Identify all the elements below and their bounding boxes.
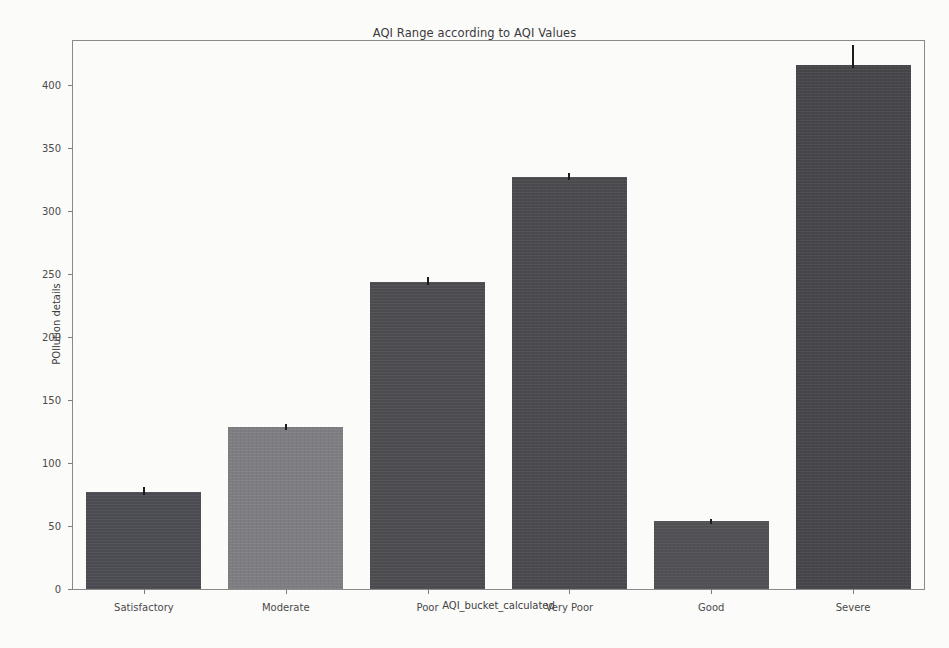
error-bar bbox=[710, 519, 712, 524]
bar-texture bbox=[654, 521, 769, 589]
bar-poor bbox=[370, 282, 485, 589]
y-axis-tick-mark bbox=[68, 211, 73, 212]
y-axis-tick-label: 50 bbox=[0, 521, 61, 532]
y-axis-tick-mark bbox=[68, 463, 73, 464]
bar-texture bbox=[512, 177, 627, 589]
bar-good bbox=[654, 521, 769, 589]
plot-area: 050100150200250300350400SatisfactoryMode… bbox=[72, 40, 925, 590]
chart-figure: AQI Range according to AQI Values POllut… bbox=[0, 0, 949, 648]
y-axis-tick-label: 150 bbox=[0, 395, 61, 406]
y-axis-label: POllution details bbox=[51, 283, 62, 364]
x-axis-tick-mark bbox=[286, 589, 287, 594]
y-axis-tick-mark bbox=[68, 589, 73, 590]
chart-title: AQI Range according to AQI Values bbox=[0, 26, 949, 40]
y-axis-tick-label: 250 bbox=[0, 269, 61, 280]
bar-texture bbox=[86, 492, 201, 589]
x-axis-tick-mark bbox=[711, 589, 712, 594]
error-bar bbox=[285, 424, 287, 429]
y-axis-tick-label: 0 bbox=[0, 584, 61, 595]
y-axis-tick-label: 200 bbox=[0, 332, 61, 343]
x-axis-tick-mark bbox=[428, 589, 429, 594]
bar-texture bbox=[796, 65, 911, 589]
y-axis-tick-mark bbox=[68, 526, 73, 527]
bar-texture bbox=[370, 282, 485, 589]
bar-texture bbox=[228, 427, 343, 590]
error-bar bbox=[568, 173, 570, 181]
y-axis-tick-mark bbox=[68, 400, 73, 401]
y-axis-tick-label: 300 bbox=[0, 206, 61, 217]
bar-very-poor bbox=[512, 177, 627, 589]
x-axis-tick-mark bbox=[853, 589, 854, 594]
error-bar bbox=[852, 45, 854, 68]
y-axis-tick-mark bbox=[68, 85, 73, 86]
y-axis-tick-label: 350 bbox=[0, 143, 61, 154]
y-axis-tick-mark bbox=[68, 337, 73, 338]
error-bar bbox=[143, 487, 145, 495]
y-axis-tick-mark bbox=[68, 148, 73, 149]
error-bar bbox=[427, 277, 429, 285]
plot-inner: 050100150200250300350400SatisfactoryMode… bbox=[73, 41, 924, 589]
y-axis-tick-mark bbox=[68, 274, 73, 275]
x-axis-label: AQI_bucket_calculated bbox=[72, 600, 925, 611]
y-axis-tick-label: 400 bbox=[0, 80, 61, 91]
bar-moderate bbox=[228, 427, 343, 590]
bar-satisfactory bbox=[86, 492, 201, 589]
bar-severe bbox=[796, 65, 911, 589]
y-axis-tick-label: 100 bbox=[0, 458, 61, 469]
x-axis-tick-mark bbox=[569, 589, 570, 594]
x-axis-tick-mark bbox=[144, 589, 145, 594]
